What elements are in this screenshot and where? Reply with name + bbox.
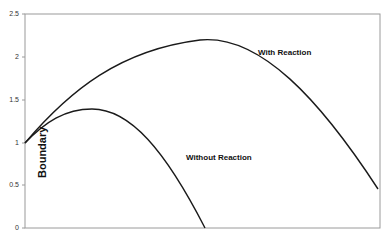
y-tick-0: 0 [15, 224, 19, 231]
y-tick-1.5: 1.5 [9, 96, 19, 103]
series-without-reaction-line [25, 109, 205, 228]
y-tick-0.5: 0.5 [9, 181, 19, 188]
y-tick-1: 1 [15, 139, 19, 146]
series-with-reaction-line [25, 40, 378, 189]
boundary-annotation: Boundary [36, 126, 48, 178]
plot-area-frame [25, 14, 380, 228]
y-tick-2.5: 2.5 [9, 10, 19, 17]
chart: 0 0.5 1 1.5 2 2.5 With Reaction Without … [0, 0, 388, 237]
label-without-reaction: Without Reaction [186, 153, 252, 162]
label-with-reaction: With Reaction [258, 48, 311, 57]
y-tick-labels: 0 0.5 1 1.5 2 2.5 [9, 10, 19, 231]
y-tick-2: 2 [15, 53, 19, 60]
